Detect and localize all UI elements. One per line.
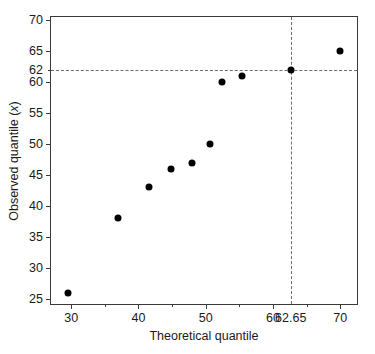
plot-area: 2530354045505560657062304050607062.65 bbox=[51, 17, 357, 304]
y-tick-25 bbox=[46, 299, 51, 300]
x-tick-70 bbox=[340, 304, 341, 309]
y-tick-label-45: 45 bbox=[29, 169, 43, 182]
y-tick-55 bbox=[46, 113, 51, 114]
data-point bbox=[287, 66, 294, 73]
x-tick-label-30: 30 bbox=[64, 312, 78, 325]
y-tick-label-40: 40 bbox=[29, 200, 43, 213]
y-tick-45 bbox=[46, 175, 51, 176]
data-point bbox=[188, 159, 195, 166]
x-tick-minor-65 bbox=[307, 304, 308, 307]
y-tick-50 bbox=[46, 144, 51, 145]
reference-line-horizontal bbox=[51, 70, 357, 71]
x-tick-50 bbox=[206, 304, 207, 309]
x-tick-label-70: 70 bbox=[333, 312, 347, 325]
data-point bbox=[218, 79, 225, 86]
x-tick-label-40: 40 bbox=[131, 312, 145, 325]
y-axis-title-suffix: ) bbox=[7, 101, 21, 105]
x-tick-40 bbox=[138, 304, 139, 309]
y-tick-label-35: 35 bbox=[29, 231, 43, 244]
y-tick-label-70: 70 bbox=[29, 14, 43, 27]
y-axis-title: Observed quantile (x) bbox=[6, 16, 22, 305]
data-point bbox=[337, 48, 344, 55]
y-tick-60 bbox=[46, 82, 51, 83]
x-tick-label-62.65: 62.65 bbox=[275, 312, 306, 325]
data-point bbox=[115, 215, 122, 222]
x-tick-label-50: 50 bbox=[199, 312, 213, 325]
y-axis-title-variable: x bbox=[7, 105, 21, 111]
y-tick-label-55: 55 bbox=[29, 107, 43, 120]
y-tick-label-65: 65 bbox=[29, 45, 43, 58]
y-axis-title-text: Observed quantile (x) bbox=[7, 101, 21, 221]
x-axis-title: Theoretical quantile bbox=[50, 329, 358, 343]
y-tick-label-62: 62 bbox=[29, 63, 43, 76]
x-tick-60 bbox=[273, 304, 274, 309]
y-tick-label-30: 30 bbox=[29, 262, 43, 275]
y-axis-title-prefix: Observed quantile ( bbox=[7, 111, 21, 220]
data-point bbox=[238, 72, 245, 79]
x-tick-minor-35 bbox=[105, 304, 106, 307]
x-tick-30 bbox=[71, 304, 72, 309]
data-point bbox=[145, 184, 152, 191]
data-point bbox=[64, 289, 71, 296]
reference-line-vertical bbox=[291, 17, 292, 304]
y-tick-label-60: 60 bbox=[29, 76, 43, 89]
qq-plot-figure: Observed quantile (x) 253035404550556065… bbox=[0, 0, 375, 354]
data-point bbox=[168, 165, 175, 172]
y-tick-35 bbox=[46, 237, 51, 238]
y-tick-70 bbox=[46, 20, 51, 21]
y-tick-40 bbox=[46, 206, 51, 207]
y-tick-30 bbox=[46, 268, 51, 269]
y-tick-label-50: 50 bbox=[29, 138, 43, 151]
y-tick-label-25: 25 bbox=[29, 293, 43, 306]
x-tick-minor-45 bbox=[172, 304, 173, 307]
plot-frame: 2530354045505560657062304050607062.65 bbox=[50, 16, 358, 305]
data-point bbox=[206, 141, 213, 148]
x-tick-minor-55 bbox=[239, 304, 240, 307]
y-tick-65 bbox=[46, 51, 51, 52]
